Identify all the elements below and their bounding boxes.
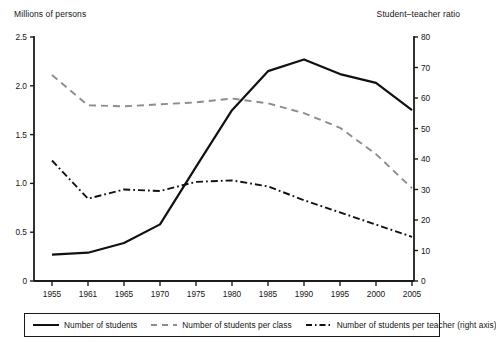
axis-tick-labels: 00.51.01.52.02.5010203040506070801955196… [15,32,430,299]
svg-text:1975: 1975 [187,289,206,299]
legend-item: Number of students per class [151,320,291,330]
series-line-0 [52,59,412,254]
svg-text:80: 80 [421,32,431,42]
svg-text:2005: 2005 [403,289,422,299]
svg-text:30: 30 [421,185,431,195]
legend: Number of students Number of students pe… [24,313,440,337]
legend-item: Number of students per teacher (right ax… [306,320,496,330]
svg-text:1990: 1990 [295,289,314,299]
data-series-group [52,59,412,254]
svg-text:10: 10 [421,246,431,256]
legend-swatch-dashdot [306,320,332,330]
svg-text:0: 0 [22,276,27,286]
legend-item: Number of students [33,320,137,330]
svg-text:20: 20 [421,215,431,225]
svg-text:1961: 1961 [79,289,98,299]
svg-text:2.5: 2.5 [15,32,27,42]
series-line-2 [52,161,412,237]
legend-label: Number of students per class [182,320,291,330]
svg-text:0: 0 [421,276,426,286]
svg-text:1980: 1980 [223,289,242,299]
svg-text:2000: 2000 [367,289,386,299]
svg-text:1970: 1970 [151,289,170,299]
legend-label: Number of students [64,320,137,330]
legend-swatch-dashed [151,320,177,330]
svg-text:1.5: 1.5 [15,130,27,140]
svg-text:60: 60 [421,93,431,103]
axis-ticks [30,37,418,286]
svg-text:1955: 1955 [43,289,62,299]
legend-swatch-solid [33,320,59,330]
legend-label: Number of students per teacher (right ax… [337,320,496,330]
svg-text:40: 40 [421,154,431,164]
svg-text:2.0: 2.0 [15,81,27,91]
svg-text:1995: 1995 [331,289,350,299]
svg-text:1965: 1965 [115,289,134,299]
svg-text:0.5: 0.5 [15,227,27,237]
series-line-1 [52,75,412,188]
svg-text:50: 50 [421,124,431,134]
svg-text:1.0: 1.0 [15,178,27,188]
svg-text:1985: 1985 [259,289,278,299]
axis-lines [34,36,414,281]
svg-text:70: 70 [421,63,431,73]
